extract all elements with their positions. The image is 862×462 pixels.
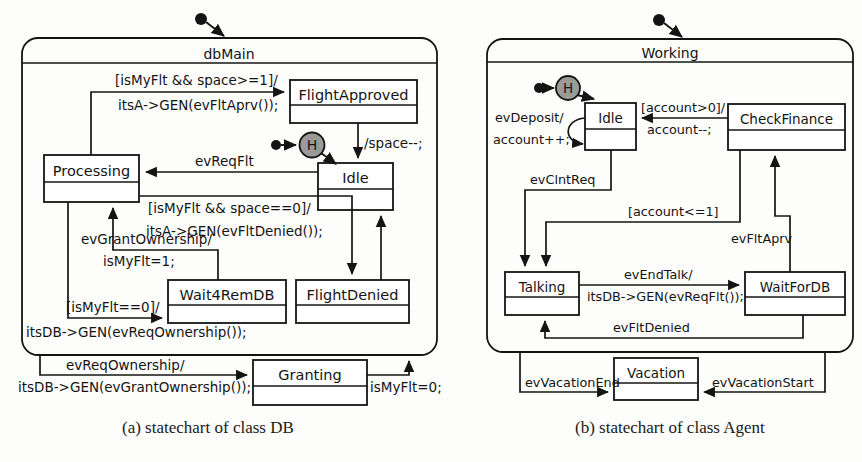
state-waitfordb[interactable]: WaitForDB: [745, 272, 845, 315]
transition-grantownership-action: isMyFlt=1;: [103, 253, 175, 269]
transition-endtalk-action: itsDB->GEN(evReqFlt());: [587, 289, 744, 304]
transition-clntreq-label: evClntReq: [530, 172, 595, 187]
transition-fltaprv-label: evFltAprv: [731, 231, 793, 246]
transition-reqownership-guard: [isMyFlt==0]/: [66, 299, 160, 315]
state-wait4remdb[interactable]: Wait4RemDB: [168, 280, 286, 323]
state-talking[interactable]: Talking: [505, 272, 579, 315]
transition-granting-to-dbmain[interactable]: [367, 361, 409, 375]
state-vacation[interactable]: Vacation: [614, 358, 698, 400]
state-waitfordb-label: WaitForDB: [760, 279, 831, 295]
transition-fltdenied-label: evFltDenied: [613, 320, 690, 335]
transition-vacationstart-label: evVacationStart: [712, 375, 814, 390]
composite-state-dbmain-label: dbMain: [203, 46, 254, 62]
history-marker-label: H: [307, 137, 318, 153]
state-flight-denied[interactable]: FlightDenied: [296, 280, 409, 323]
transition-endtalk-event: evEndTalk/: [624, 267, 693, 282]
state-processing-label: Processing: [53, 163, 130, 179]
transition-accountgt0-action: account--;: [647, 122, 712, 137]
state-granting-label: Granting: [278, 367, 341, 383]
transition-waitfordb-to-checkfinance[interactable]: [775, 156, 790, 272]
state-check-finance[interactable]: CheckFinance: [728, 104, 845, 150]
history-pseudostate-agent[interactable]: H: [534, 76, 594, 100]
state-wait4remdb-label: Wait4RemDB: [180, 287, 275, 303]
state-idle-db-label: Idle: [342, 170, 369, 186]
transition-ismyflt0-label: isMyFlt=0;: [370, 379, 442, 395]
state-idle-db[interactable]: Idle: [318, 163, 393, 210]
transition-deposit-event: evDeposit/: [495, 110, 564, 125]
statechart-db: dbMain FlightApproved Idle Processing Wa…: [0, 0, 462, 415]
initial-transition-dbmain: [206, 22, 224, 36]
transition-deny-guard: [isMyFlt && space==0]/: [148, 200, 311, 216]
initial-transition-working: [664, 23, 682, 37]
state-vacation-label: Vacation: [627, 365, 685, 381]
state-idle-agent[interactable]: Idle: [585, 103, 636, 150]
transition-reqown-out-event: evReqOwnership/: [66, 357, 185, 373]
state-flight-approved-label: FlightApproved: [298, 87, 408, 103]
figure-container: dbMain FlightApproved Idle Processing Wa…: [0, 0, 862, 462]
state-talking-label: Talking: [518, 279, 566, 295]
initial-state-dot-working: [653, 14, 665, 26]
transition-vacationend-label: evVacationEnd: [525, 375, 620, 390]
composite-state-working-label: Working: [641, 45, 698, 61]
transition-space-decrement-label: /space--;: [364, 135, 422, 151]
history-marker-label-agent: H: [563, 80, 573, 96]
state-idle-agent-label: Idle: [598, 110, 623, 126]
transition-idle-self-deposit[interactable]: [568, 118, 585, 144]
state-check-finance-label: CheckFinance: [740, 111, 833, 127]
transition-accountle1-guard: [account<=1]: [628, 204, 719, 219]
state-granting[interactable]: Granting: [253, 360, 367, 405]
state-flight-approved[interactable]: FlightApproved: [290, 80, 417, 123]
transition-approve-action: itsA->GEN(evFltAprv());: [118, 97, 278, 113]
transition-deposit-action: account++;: [493, 132, 570, 147]
transition-approve-guard: [isMyFlt && space>=1]/: [115, 72, 278, 88]
caption-figure-a: (a) statechart of class DB: [122, 418, 294, 438]
transition-idle-to-talking[interactable]: [525, 150, 611, 266]
state-processing[interactable]: Processing: [44, 155, 139, 202]
transition-evreqflt-label: evReqFlt: [195, 153, 254, 169]
history-pseudostate-db[interactable]: H: [271, 133, 336, 165]
transition-reqownership-action: itsDB->GEN(evReqOwnership());: [26, 324, 247, 340]
transition-accountgt0-guard: [account>0]/: [641, 100, 726, 115]
transition-grantownership-event: evGrantOwnership/: [81, 231, 212, 247]
statechart-agent: Working Idle CheckFinance Talking WaitFo…: [460, 0, 860, 415]
transition-reqown-out-action: itsDB->GEN(evGrantOwnership());: [18, 379, 251, 395]
caption-figure-b: (b) statechart of class Agent: [575, 418, 765, 438]
state-flight-denied-label: FlightDenied: [307, 287, 399, 303]
initial-state-dot-dbmain: [195, 13, 207, 25]
